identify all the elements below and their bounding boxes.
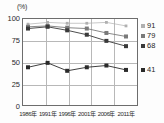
end-label-68: 68 [147,42,155,50]
y-tick-50: 50 [0,59,20,66]
data-point-91-2011年 [125,25,128,28]
data-point-41-1986年 [26,65,30,69]
series-layer [22,18,138,106]
y-axis-tick-group: 100 75 50 25 0 [0,0,20,123]
data-point-68-1986年 [26,27,30,31]
series-41 [26,61,128,73]
data-point-41-2011年 [124,68,128,72]
data-point-41-2001年 [85,65,89,69]
end-label-41: 41 [147,66,155,74]
end-label-79: 79 [147,32,155,40]
end-marker-79 [141,34,145,38]
data-point-91-2001年 [85,22,88,25]
x-tick-2006年: 2006年 [98,109,115,118]
data-point-79-2011年 [124,34,128,38]
series-line-41 [28,63,126,71]
x-tick-2011年: 2011年 [118,109,135,118]
data-point-41-1996年 [65,69,69,73]
x-tick-2001年: 2001年 [78,109,95,118]
x-tick-1986年: 1986年 [19,109,36,118]
data-point-79-2006年 [104,31,108,35]
x-tick-1996年: 1996年 [59,109,76,118]
series-line-91 [28,22,126,26]
data-point-68-2006年 [104,39,108,43]
data-point-41-2006年 [104,64,108,68]
data-point-91-2006年 [105,21,108,24]
data-point-91-1996年 [66,22,69,25]
series-79 [26,24,128,39]
chart-container: (%) 100 75 50 25 0 1986年1991年1996年2001年2… [0,0,164,123]
data-point-91-1991年 [46,21,49,24]
y-tick-75: 75 [0,37,20,44]
y-tick-100: 100 [0,15,20,22]
x-tick-1991年: 1991年 [39,109,56,118]
data-point-68-1991年 [46,25,50,29]
data-point-41-1991年 [46,61,50,65]
data-point-68-2001年 [85,33,89,37]
series-line-68 [28,27,126,46]
end-marker-41 [141,68,145,72]
y-tick-0: 0 [0,103,20,110]
end-label-91: 91 [147,22,155,30]
data-point-68-1996年 [65,28,69,32]
end-marker-91 [141,24,145,28]
data-point-68-2011年 [124,44,128,48]
data-point-79-2001年 [85,27,89,31]
end-marker-68 [141,44,145,48]
y-tick-25: 25 [0,81,20,88]
